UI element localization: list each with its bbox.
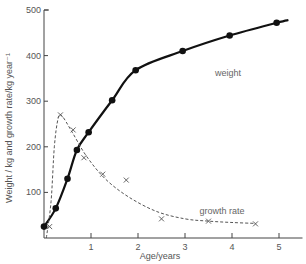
weight-point [179,48,186,55]
weight-point [132,67,139,74]
growth-rate-cross [124,178,129,183]
growth-rate-cross [159,216,164,221]
weight-point [41,223,48,230]
weight-point [74,147,81,154]
growth-rate-cross [253,221,258,226]
y-tick-label: 300 [26,96,41,106]
weight-point [85,129,92,136]
growth-rate-cross [58,112,63,117]
x-tick-label: 5 [276,242,281,252]
series-layer [41,19,289,238]
x-axis-title: Age/years [140,251,181,261]
y-axis-title: Weight / kg and growth rate/kg year⁻¹ [4,53,14,203]
weight-point [273,19,280,26]
weight-point [226,32,233,39]
y-tick-label: 500 [26,5,41,15]
x-tick-label: 1 [88,242,93,252]
axes: 10020030040050012345 [26,5,303,252]
x-tick-label: 4 [229,242,234,252]
weight-point [64,175,71,182]
growth-rate-cross [71,127,76,132]
growth-rate-label: growth rate [199,206,244,216]
weight-label: weight [214,68,242,78]
growth-chart: 10020030040050012345 Age/yearsWeight / k… [0,0,306,264]
growth-rate-line [46,114,255,238]
growth-rate-cross [81,155,86,160]
weight-point [109,97,116,104]
y-tick-label: 400 [26,51,41,61]
y-tick-label: 100 [26,187,41,197]
x-tick-label: 3 [182,242,187,252]
weight-point [52,205,59,212]
y-tick-label: 200 [26,142,41,152]
labels-layer: Age/yearsWeight / kg and growth rate/kg … [4,53,245,261]
weight-line [44,20,288,227]
